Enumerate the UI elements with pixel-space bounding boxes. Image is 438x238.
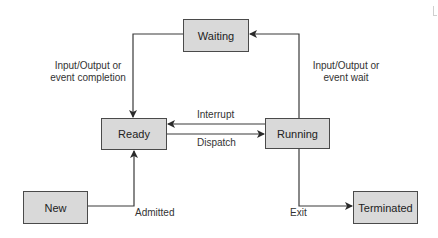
state-ready: Ready: [101, 118, 167, 150]
label-io-completion: Input/Output or event completion: [48, 60, 128, 84]
edge-running-to-terminated: [299, 149, 352, 206]
corner-crop-mark: [433, 6, 437, 16]
state-running: Running: [265, 118, 330, 149]
label-io-completion-line1: Input/Output or: [48, 60, 128, 72]
label-dispatch: Dispatch: [197, 137, 236, 149]
edge-new-to-ready: [88, 151, 134, 206]
label-io-wait: Input/Output or event wait: [306, 60, 386, 84]
label-interrupt: Interrupt: [197, 109, 234, 121]
state-waiting: Waiting: [183, 19, 249, 52]
label-io-completion-line2: event completion: [48, 72, 128, 84]
state-ready-label: Ready: [118, 128, 150, 140]
label-admitted: Admitted: [135, 207, 174, 219]
state-waiting-label: Waiting: [198, 30, 234, 42]
state-running-label: Running: [277, 128, 318, 140]
edge-waiting-to-ready: [133, 34, 183, 117]
state-new-label: New: [44, 202, 66, 214]
label-io-wait-line2: event wait: [306, 72, 386, 84]
state-terminated: Terminated: [353, 191, 418, 224]
edge-running-to-waiting: [250, 34, 299, 118]
state-new: New: [23, 191, 88, 224]
process-state-diagram: Waiting Ready Running New Terminated Inp…: [0, 0, 438, 238]
label-io-wait-line1: Input/Output or: [306, 60, 386, 72]
state-terminated-label: Terminated: [358, 202, 412, 214]
label-exit: Exit: [290, 207, 307, 219]
